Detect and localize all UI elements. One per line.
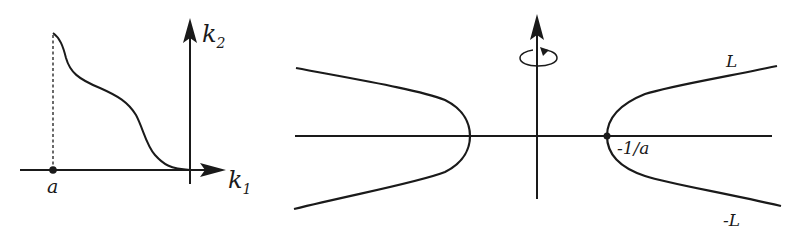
figure: a k2 k1 -1/a L -L — [0, 0, 797, 237]
vertex-label: -1/a — [617, 138, 649, 158]
rotation-icon — [520, 47, 557, 66]
k2-axis-label: k2 — [202, 20, 226, 51]
right-panel: -1/a L -L — [294, 14, 781, 230]
point-a — [49, 166, 57, 174]
vertex-point — [604, 133, 611, 140]
decreasing-curve — [53, 33, 190, 170]
lower-branch-label: -L — [723, 210, 740, 230]
upper-branch-label: L — [725, 51, 737, 71]
left-panel: a k2 k1 — [20, 18, 251, 197]
k1-axis-label: k1 — [228, 166, 251, 197]
point-a-label: a — [47, 175, 58, 197]
left-hyperbola-branch — [294, 68, 470, 209]
